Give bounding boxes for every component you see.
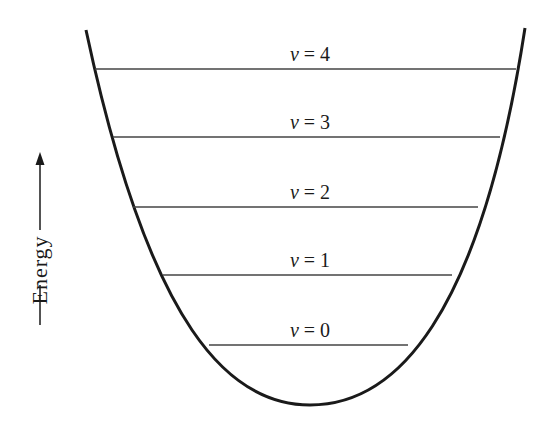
energy-level-diagram: v = 4v = 3v = 2v = 1v = 0 Energy [0, 0, 550, 429]
energy-level-v1: v = 1 [163, 249, 452, 275]
energy-axis: Energy [27, 152, 52, 325]
energy-level-v3: v = 3 [113, 111, 500, 137]
energy-level-v4: v = 4 [95, 43, 516, 69]
energy-level-label: v = 4 [290, 43, 330, 65]
energy-axis-label: Energy [27, 235, 52, 304]
potential-well-curve [86, 28, 525, 405]
energy-level-label: v = 0 [290, 319, 330, 341]
energy-level-label: v = 3 [290, 111, 330, 133]
energy-levels: v = 4v = 3v = 2v = 1v = 0 [95, 43, 516, 345]
energy-level-label: v = 2 [290, 181, 330, 203]
energy-level-label: v = 1 [290, 249, 330, 271]
energy-level-v0: v = 0 [209, 319, 408, 345]
arrow-up-icon [36, 152, 45, 165]
energy-level-v2: v = 2 [133, 181, 478, 207]
